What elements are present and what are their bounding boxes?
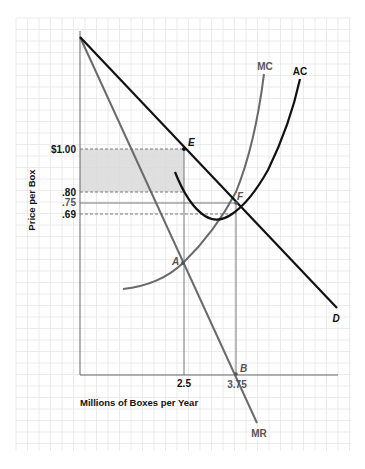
monopoly-chart: $1.00 .80 .75 .69 2.5 3.75 Price per Box… [0, 0, 365, 469]
d-label: D [332, 313, 339, 324]
points [181, 147, 238, 376]
mr-curve [80, 37, 257, 423]
point-a [181, 261, 185, 265]
y-axis-title: Price per Box [26, 169, 37, 231]
point-e [182, 147, 186, 151]
point-a-label: A [171, 256, 179, 267]
point-e-label: E [188, 137, 195, 148]
y-tick-0-69: .69 [62, 209, 76, 220]
x-axis-title: Millions of Boxes per Year [80, 397, 198, 408]
point-f-label: F [237, 191, 244, 202]
x-tick-2-5: 2.5 [177, 378, 191, 389]
ac-label: AC [293, 66, 307, 77]
y-tick-0-75: .75 [62, 197, 76, 208]
x-tick-3-75: 3.75 [227, 379, 247, 390]
mr-label: MR [251, 428, 267, 439]
profit-shaded-region [80, 149, 184, 192]
y-tick-1-00: $1.00 [51, 144, 76, 155]
point-b-label: B [240, 363, 247, 374]
mc-label: MC [257, 61, 273, 72]
point-b [234, 372, 238, 376]
